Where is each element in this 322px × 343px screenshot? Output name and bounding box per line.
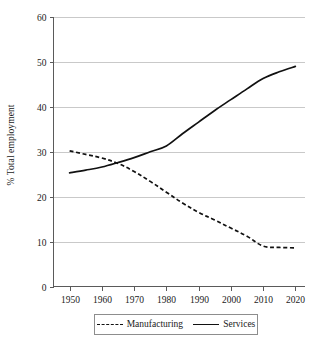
x-tick-label: 1970 [125, 295, 144, 305]
x-tick-label: 1950 [61, 295, 80, 305]
x-tick-label: 1990 [190, 295, 209, 305]
x-tick-label: 1960 [93, 295, 112, 305]
x-tick-label: 2000 [222, 295, 241, 305]
x-tick-label: 2020 [286, 295, 305, 305]
y-tick-labels: 0102030405060 [37, 13, 47, 293]
legend-label-services: Services [223, 320, 255, 330]
series-line-services [70, 66, 296, 172]
legend-label-manufacturing: Manufacturing [127, 320, 183, 330]
x-tick-label: 2010 [254, 295, 273, 305]
chart-legend: Manufacturing Services [94, 314, 258, 335]
y-tick-label: 0 [42, 283, 47, 293]
legend-swatch-solid-icon [193, 324, 219, 325]
x-tick-marks [71, 287, 296, 291]
legend-item-manufacturing[interactable]: Manufacturing [97, 320, 183, 330]
y-tick-label: 30 [37, 148, 47, 158]
y-tick-marks [50, 18, 54, 288]
legend-swatch-dashed-icon [97, 324, 123, 325]
x-tick-label: 1980 [157, 295, 176, 305]
y-tick-label: 20 [37, 193, 47, 203]
y-tick-label: 60 [37, 13, 47, 23]
y-tick-label: 40 [37, 103, 47, 113]
x-tick-labels: 19501960197019801990200020102020 [61, 295, 305, 305]
series-lines [70, 66, 296, 247]
series-line-manufacturing [70, 151, 296, 248]
legend-item-services[interactable]: Services [193, 320, 255, 330]
chart-figure: % Total employment 0102030405060 1950196… [0, 0, 322, 343]
y-tick-label: 10 [37, 238, 47, 248]
plot-area: 0102030405060 19501960197019801990200020… [0, 0, 322, 310]
gridlines [54, 18, 306, 243]
y-tick-label: 50 [37, 58, 47, 68]
